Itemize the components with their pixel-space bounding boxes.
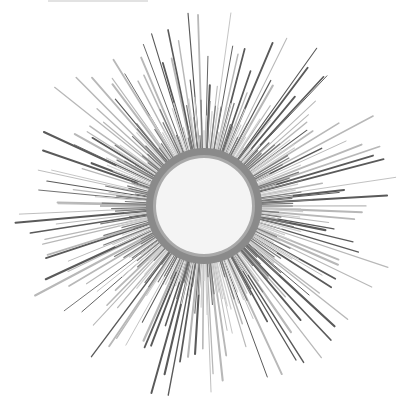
mirror-glass [156,158,252,254]
mirror-ray [200,135,201,150]
mirror-ray [125,201,148,202]
mirror-ray [201,262,202,308]
sunburst-mirror [0,0,398,401]
mirror-ray [260,203,293,204]
